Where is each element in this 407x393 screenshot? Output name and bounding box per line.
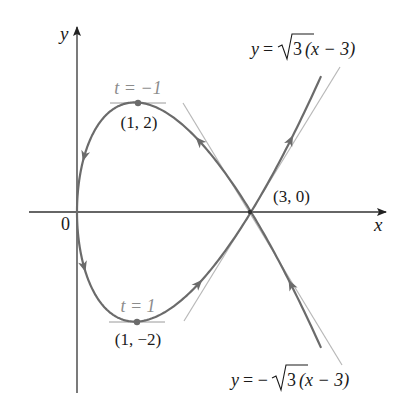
svg-text:(x − 3): (x − 3) [299,370,349,391]
svg-text:= −: = − [243,370,268,390]
origin-label: 0 [61,214,70,234]
svg-text:(x − 3): (x − 3) [305,39,355,60]
svg-text:3: 3 [287,370,296,390]
direction-arrow-icon [78,260,90,273]
param-label-top: t = −1 [114,78,161,98]
point-label-top: (1, 2) [121,113,158,132]
point-label-cross: (3, 0) [273,187,310,206]
tangent-line-negative-slope [183,103,342,365]
equation-bottom: y = − 3 (x − 3) [229,365,349,391]
y-axis-label: y [58,23,69,44]
point-3-0 [248,210,252,214]
svg-text:y: y [249,39,259,59]
x-axis-label: x [373,214,383,235]
direction-arrow-icon [78,150,90,163]
param-label-bottom: t = 1 [120,296,155,316]
point-1-neg2 [134,319,140,325]
parametric-diagram: y x 0 t = −1 (1, 2) t = 1 (1, −2) (3, 0)… [0,0,407,393]
svg-text:=: = [263,39,273,59]
svg-text:3: 3 [293,39,302,59]
equation-top: y = 3 (x − 3) [249,34,355,60]
point-label-bottom: (1, −2) [115,330,161,349]
point-1-2 [135,100,141,106]
svg-text:y: y [229,370,239,390]
